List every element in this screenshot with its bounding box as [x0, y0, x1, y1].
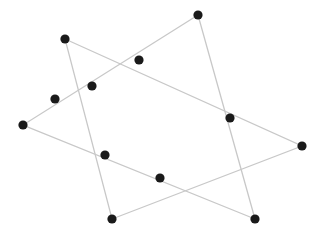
points — [18, 10, 306, 223]
point-8 — [100, 150, 109, 159]
diagram-canvas — [0, 0, 322, 239]
point-11 — [250, 214, 259, 223]
point-1 — [60, 34, 69, 43]
triangle-edges — [23, 15, 302, 219]
triangles-diagram — [0, 0, 322, 239]
point-6 — [225, 113, 234, 122]
point-2 — [134, 55, 143, 64]
point-0 — [193, 10, 202, 19]
point-7 — [297, 141, 306, 150]
triangle-a — [65, 39, 302, 219]
point-3 — [87, 81, 96, 90]
point-5 — [18, 120, 27, 129]
triangle-b — [23, 15, 255, 219]
point-4 — [50, 94, 59, 103]
point-10 — [107, 214, 116, 223]
point-9 — [155, 173, 164, 182]
